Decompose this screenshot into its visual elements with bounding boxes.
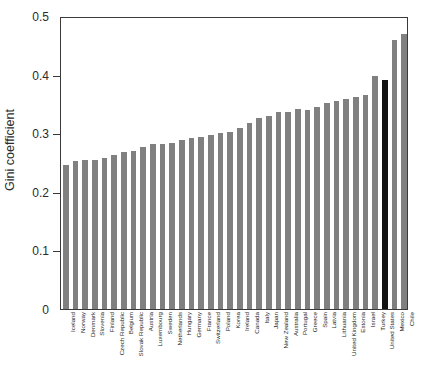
plot-area	[60, 17, 408, 310]
gini-coefficient-bar-chart: Gini coefficient 00.10.20.30.40.5 Icelan…	[0, 0, 421, 379]
bar	[295, 109, 301, 309]
bar	[150, 144, 156, 309]
bar	[121, 152, 127, 309]
bars-group	[61, 18, 407, 309]
y-axis-tick-label: 0.4	[3, 69, 49, 83]
bar	[334, 101, 340, 309]
bar	[169, 143, 175, 309]
bar	[276, 112, 282, 309]
bar	[131, 151, 137, 309]
bar	[372, 76, 378, 309]
y-axis-tick	[53, 134, 60, 135]
bar	[140, 147, 146, 309]
bar	[266, 116, 272, 309]
bar	[285, 112, 291, 309]
bar	[92, 160, 98, 309]
bar	[343, 99, 349, 309]
bar	[392, 40, 398, 309]
bar	[63, 165, 69, 309]
y-axis-tick	[53, 251, 60, 252]
bar	[189, 138, 195, 309]
y-axis-tick-labels: 00.10.20.30.40.5	[0, 0, 49, 379]
y-axis-tick-label: 0.1	[3, 244, 49, 258]
bar	[111, 155, 117, 309]
bar	[160, 144, 166, 309]
bar	[237, 128, 243, 309]
x-axis-category-labels: IcelandNorwayDenmarkSloveniaFinlandCzech…	[60, 312, 408, 379]
bar	[82, 160, 88, 309]
bar	[305, 110, 311, 309]
bar	[247, 123, 253, 309]
y-axis-tick	[53, 193, 60, 194]
bar	[314, 107, 320, 309]
bar	[324, 103, 330, 309]
bar	[227, 132, 233, 309]
bar	[198, 137, 204, 309]
y-axis-tick-label: 0.5	[3, 10, 49, 24]
bar	[218, 133, 224, 309]
y-axis-tick-label: 0	[3, 303, 49, 317]
bar	[353, 97, 359, 309]
y-axis-tick	[53, 76, 60, 77]
bar	[179, 140, 185, 309]
bar	[102, 158, 108, 309]
bar	[73, 161, 79, 309]
bar	[363, 95, 369, 309]
bar	[401, 34, 407, 309]
bar	[208, 135, 214, 309]
y-axis-tick-label: 0.2	[3, 186, 49, 200]
y-axis-tick-label: 0.3	[3, 127, 49, 141]
bar	[256, 118, 262, 309]
bar	[382, 80, 388, 309]
